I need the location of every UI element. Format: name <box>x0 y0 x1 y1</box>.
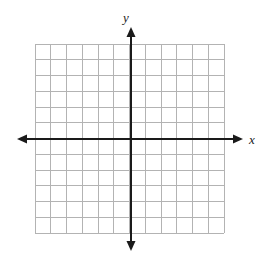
y-axis-label: y <box>121 10 129 25</box>
x-axis-label: x <box>248 132 255 147</box>
figure-background <box>0 0 270 259</box>
figure-canvas: y x <box>0 0 270 259</box>
coordinate-plane: y x <box>0 0 270 259</box>
